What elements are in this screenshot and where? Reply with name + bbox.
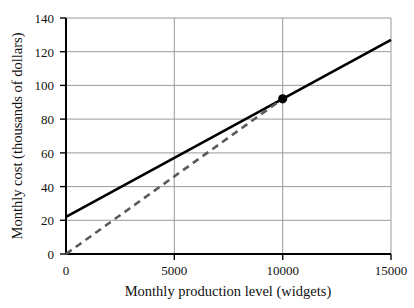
y-tick-label-100: 100: [35, 78, 55, 93]
chart-figure: 140 120 100 80 60 40 20 0 0 5000 10000 1…: [0, 0, 414, 308]
x-tick-label-0: 0: [63, 263, 70, 278]
break-even-point-marker: [278, 94, 287, 103]
y-tick-label-120: 120: [35, 45, 55, 60]
y-tick-label-60: 60: [41, 146, 54, 161]
x-tick-label-10000: 10000: [266, 263, 299, 278]
y-tick-label-80: 80: [41, 112, 54, 127]
y-axis-title: Monthly cost (thousands of dollars): [9, 32, 26, 239]
x-tick-label-5000: 5000: [161, 263, 187, 278]
cost-vs-production-line-chart: 140 120 100 80 60 40 20 0 0 5000 10000 1…: [0, 0, 414, 308]
x-axis-title: Monthly production level (widgets): [125, 283, 332, 300]
y-tick-label-20: 20: [41, 213, 54, 228]
y-tick-label-40: 40: [41, 180, 54, 195]
y-tick-label-140: 140: [35, 11, 55, 26]
x-tick-label-15000: 15000: [375, 263, 408, 278]
y-tick-label-0: 0: [48, 247, 55, 262]
